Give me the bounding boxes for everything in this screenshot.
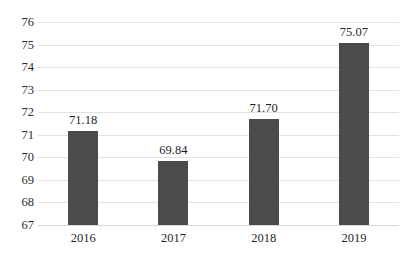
- bar-chart: 67686970717273747576 71.1869.8471.7075.0…: [0, 0, 411, 262]
- x-axis-tick-label: 2016: [71, 232, 96, 245]
- gridline: [38, 22, 399, 23]
- y-axis-tick-label: 76: [0, 16, 34, 29]
- x-axis-tick-label: 2017: [161, 232, 186, 245]
- bar[interactable]: [68, 131, 98, 225]
- y-axis-tick-label: 68: [0, 196, 34, 209]
- plot-area: 71.1869.8471.7075.07: [38, 22, 399, 225]
- y-axis-tick-label: 72: [0, 106, 34, 119]
- gridline: [38, 225, 399, 226]
- y-axis-tick-label: 71: [0, 129, 34, 142]
- y-axis-tick-label: 75: [0, 38, 34, 51]
- bar[interactable]: [249, 119, 279, 225]
- bar-value-label: 69.84: [143, 144, 203, 157]
- bar[interactable]: [158, 161, 188, 225]
- x-axis-tick-label: 2018: [251, 232, 276, 245]
- x-axis-tick-label: 2019: [341, 232, 366, 245]
- bar-value-label: 71.70: [234, 102, 294, 115]
- y-axis-tick-label: 70: [0, 151, 34, 164]
- y-axis-tick-label: 69: [0, 174, 34, 187]
- bar[interactable]: [339, 43, 369, 225]
- y-axis-tick-label: 67: [0, 219, 34, 232]
- y-axis-tick-label: 74: [0, 61, 34, 74]
- y-axis: 67686970717273747576: [0, 22, 34, 225]
- bar-value-label: 71.18: [53, 114, 113, 127]
- x-axis: 2016201720182019: [38, 232, 399, 254]
- bar-value-label: 75.07: [324, 26, 384, 39]
- y-axis-tick-label: 73: [0, 83, 34, 96]
